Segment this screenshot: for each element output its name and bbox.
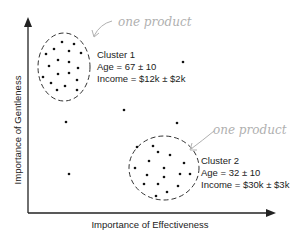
cluster-1-title: Cluster 1 <box>97 49 135 60</box>
y-axis-arrow-icon <box>24 17 32 27</box>
cluster-1-income: Income = $12k ± $2k <box>97 73 186 84</box>
y-axis-label: Importance of Gentleness <box>12 75 23 184</box>
cluster-2-income: Income = $30k ± $3k <box>201 179 290 190</box>
cluster-1: Cluster 1 Age = 67 ± 10 Income = $12k ± … <box>38 33 186 101</box>
segmentation-diagram: Importance of Effectiveness Importance o… <box>0 0 308 237</box>
cluster-1-age: Age = 67 ± 10 <box>97 61 156 72</box>
cluster-2: Cluster 2 Age = 32 ± 10 Income = $30k ± … <box>129 136 290 200</box>
annotation-1: one product <box>92 15 192 37</box>
cluster-2-age: Age = 32 ± 10 <box>201 167 260 178</box>
x-axis-arrow-icon <box>266 209 276 217</box>
cluster-1-boundary <box>38 33 90 101</box>
annotation-1-arrow <box>94 21 112 36</box>
annotation-2-arrow <box>191 131 214 149</box>
cluster-1-points <box>42 41 83 92</box>
x-axis-label: Importance of Effectiveness <box>91 219 208 230</box>
annotation-2-text: one product <box>213 123 287 137</box>
cluster-2-points <box>134 145 192 198</box>
annotation-2: one product <box>190 123 287 150</box>
cluster-2-title: Cluster 2 <box>201 155 239 166</box>
annotation-1-text: one product <box>118 15 192 29</box>
